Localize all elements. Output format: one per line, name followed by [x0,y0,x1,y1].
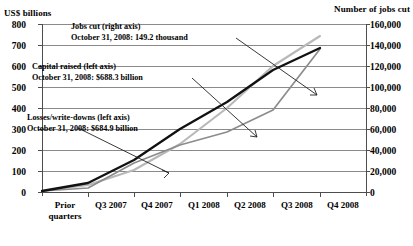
annotation-jobs-cut: Jobs cut (right axis) October 31, 2008: … [71,22,188,43]
annotation-losses-line1: Losses/write-downs (left axis) [27,113,138,124]
x-tick-q3-2007: Q3 2007 [86,200,136,211]
annotation-capital-raised: Capital raised (left axis) October 31, 2… [32,62,143,83]
annotation-capital-raised-line1: Capital raised (left axis) [32,62,143,73]
axis-ticks-right [366,24,370,192]
x-tick-q2-2008: Q2 2008 [225,200,275,211]
annotation-losses-line2: October 31, 2008: $684.9 billion [27,124,138,135]
x-tick-prior-quarters: Prior quarters [40,200,90,222]
x-tick-prior-quarters-line2: quarters [40,211,90,222]
annotation-losses-writedowns: Losses/write-downs (left axis) October 3… [27,113,138,134]
x-tick-q3-2008: Q3 2008 [272,200,322,211]
annotation-jobs-cut-line2: October 31, 2008: 149.2 thousand [71,33,188,44]
x-tick-prior-quarters-line1: Prior [40,200,90,211]
x-tick-q4-2008: Q4 2008 [318,200,368,211]
chart-figure: US$ billions Number of jobs cut 800 700 … [0,0,413,246]
axis-ticks-left [38,24,42,192]
axis-ticks-x [88,192,320,197]
x-tick-q4-2007: Q4 2007 [132,200,182,211]
annotation-capital-raised-line2: October 31, 2008: $688.3 billion [32,73,143,84]
annotation-jobs-cut-line1: Jobs cut (right axis) [71,22,188,33]
x-tick-q1-2008: Q1 2008 [179,200,229,211]
